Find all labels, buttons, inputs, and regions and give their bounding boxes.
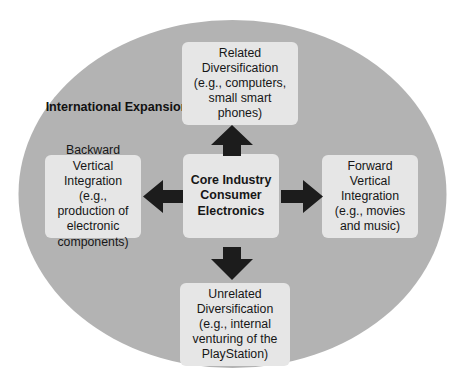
related-diversification-box: Related Diversification (e.g., computers… bbox=[182, 42, 298, 125]
international-expansion-label: International Expansion bbox=[42, 100, 192, 116]
diagram-canvas: International Expansion Related Diversif… bbox=[0, 0, 465, 388]
unrelated-diversification-box: Unrelated Diversification (e.g., interna… bbox=[180, 283, 290, 366]
arrow-left-icon bbox=[143, 180, 183, 213]
backward-vertical-integration-box: Backward Vertical Integration (e.g., pro… bbox=[45, 155, 141, 238]
core-industry-box: Core Industry Consumer Electronics bbox=[183, 154, 279, 238]
arrow-up-icon bbox=[211, 125, 253, 156]
forward-vertical-integration-box: Forward Vertical Integration (e.g., movi… bbox=[322, 155, 418, 238]
arrow-right-icon bbox=[281, 180, 323, 213]
arrow-down-icon bbox=[211, 247, 253, 280]
